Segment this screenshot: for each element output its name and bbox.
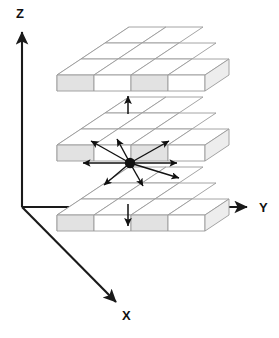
slab-top-faces: [57, 97, 229, 145]
x-axis-label: X: [122, 308, 131, 323]
y-axis-label: Y: [259, 200, 268, 215]
diagram-canvas: Z Y X: [0, 0, 279, 338]
middle-slab: [57, 97, 229, 161]
center-voxel-marker: [125, 158, 135, 168]
slab-front-faces: [57, 215, 205, 231]
slab-top-faces: [57, 27, 229, 75]
bottom-slab: [57, 167, 229, 231]
voxel-neighbourhood-diagram: Z Y X: [0, 0, 279, 338]
slab-front-faces: [57, 75, 205, 91]
z-axis-label: Z: [16, 6, 24, 21]
slab-top-faces: [57, 167, 229, 215]
top-slab: [57, 27, 229, 91]
